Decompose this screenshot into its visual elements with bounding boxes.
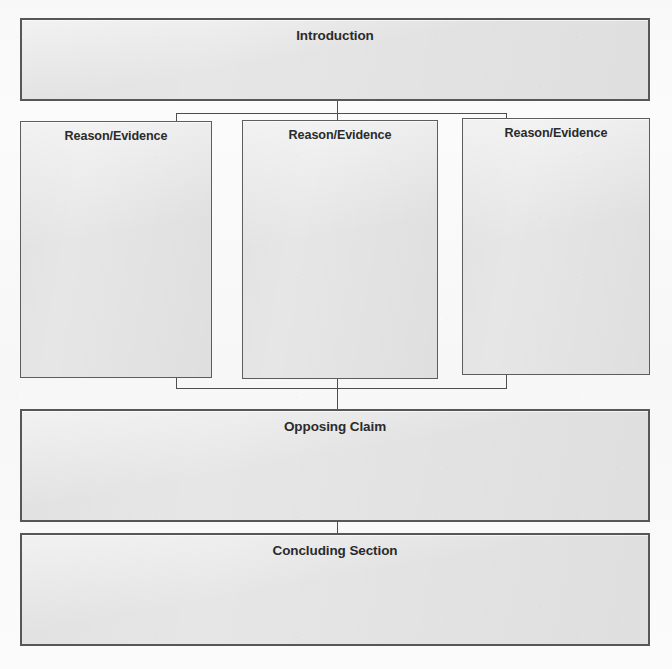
- connector-opposing-claim-stem: [337, 388, 338, 410]
- node-reason-evidence-3-label: Reason/Evidence: [463, 127, 649, 141]
- node-reason-evidence-2-label: Reason/Evidence: [243, 129, 437, 143]
- node-introduction-label: Introduction: [22, 29, 648, 44]
- connector-reason-merge-bus: [176, 388, 506, 389]
- node-introduction[interactable]: Introduction: [20, 18, 650, 101]
- node-reason-evidence-3[interactable]: Reason/Evidence: [462, 118, 650, 375]
- connector-merge-reason-3: [506, 374, 507, 389]
- node-reason-evidence-1-label: Reason/Evidence: [21, 130, 211, 144]
- node-opposing-claim[interactable]: Opposing Claim: [20, 409, 650, 522]
- node-concluding-section[interactable]: Concluding Section: [20, 533, 650, 646]
- node-opposing-claim-label: Opposing Claim: [22, 420, 648, 435]
- node-concluding-section-label: Concluding Section: [22, 544, 648, 559]
- connector-introduction-stem: [337, 101, 338, 113]
- node-reason-evidence-1[interactable]: Reason/Evidence: [20, 121, 212, 378]
- connector-reason-distribution-bus: [176, 113, 506, 114]
- argument-graphic-organizer: Introduction Reason/Evidence Reason/Evid…: [0, 0, 672, 669]
- node-reason-evidence-2[interactable]: Reason/Evidence: [242, 120, 438, 379]
